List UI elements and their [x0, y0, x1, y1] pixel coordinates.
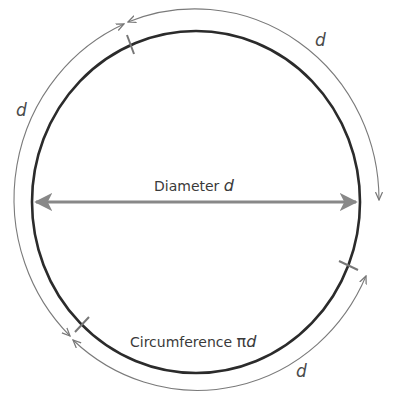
diameter-label: Diameter d	[154, 176, 234, 195]
arc-segment-left	[14, 24, 124, 336]
circumference-text: Circumference	[130, 334, 232, 350]
arc-label-left: d	[16, 100, 27, 120]
arc-label-top-right: d	[315, 30, 326, 50]
arc-label-bottom-right: d	[296, 361, 307, 381]
diameter-variable: d	[224, 176, 234, 195]
circumference-variable: d	[246, 332, 256, 351]
pi-symbol: π	[237, 332, 247, 351]
diameter-text: Diameter	[154, 178, 219, 194]
arc-segment-top-right	[128, 9, 379, 200]
circumference-label: Circumference πd	[130, 332, 256, 351]
